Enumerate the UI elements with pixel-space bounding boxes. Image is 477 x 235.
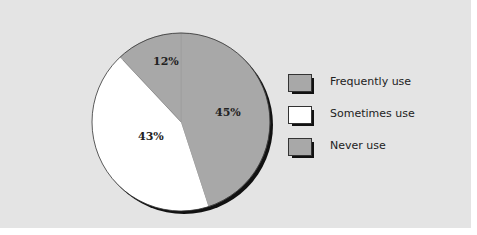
- legend-label: Sometimes use: [330, 107, 415, 120]
- legend-swatch-gray: [288, 138, 312, 156]
- legend-item-never-use: Never use: [288, 138, 458, 162]
- legend-item-sometimes-use: Sometimes use: [288, 106, 458, 130]
- slice-label-never: 12%: [153, 55, 179, 68]
- slice-label-frequently: 45%: [215, 106, 241, 119]
- legend-item-frequently-use: Frequently use: [288, 74, 458, 98]
- legend-swatch-white: [288, 106, 312, 124]
- chart-panel: 12% 45% 43% Frequently use Sometimes use…: [0, 0, 471, 228]
- slice-label-sometimes: 43%: [138, 130, 164, 143]
- legend-swatch-gray: [288, 74, 312, 92]
- legend-label: Never use: [330, 139, 386, 152]
- legend-label: Frequently use: [330, 75, 411, 88]
